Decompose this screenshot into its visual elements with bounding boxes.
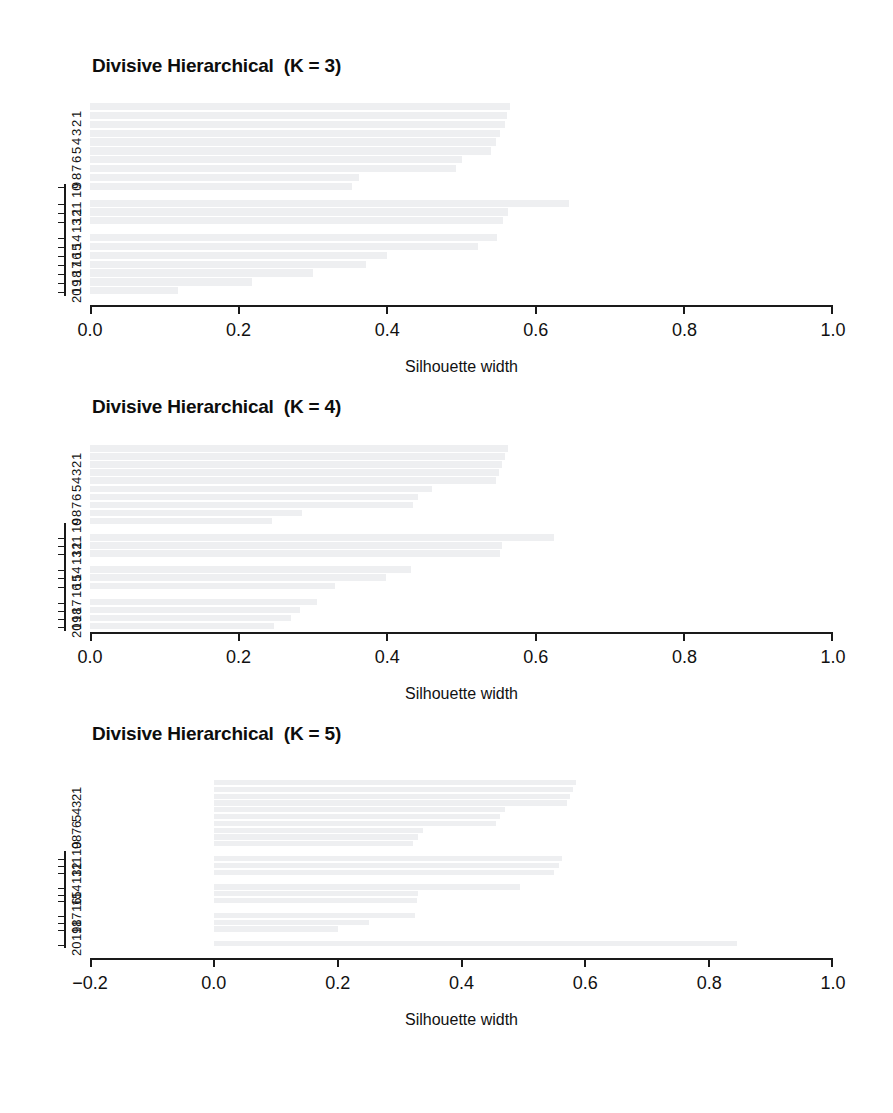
silhouette-bar <box>214 856 562 861</box>
silhouette-bar <box>90 599 317 606</box>
silhouette-bar <box>214 920 369 925</box>
y-axis-tick <box>58 930 65 931</box>
y-axis-tick <box>58 546 65 547</box>
silhouette-bar <box>90 486 432 493</box>
silhouette-bar <box>90 550 500 557</box>
y-axis-tick <box>58 901 65 902</box>
x-axis-right-cap <box>831 958 833 967</box>
silhouette-bar <box>214 913 415 918</box>
y-tick-label: 16 <box>70 898 83 912</box>
silhouette-bar <box>90 615 291 622</box>
y-axis-tick <box>58 222 65 223</box>
silhouette-bar <box>90 566 411 573</box>
y-axis-tick <box>58 554 65 555</box>
x-axis-line <box>90 632 833 634</box>
y-tick-label: 13 <box>70 870 83 884</box>
x-tick-label: 0.8 <box>672 320 697 341</box>
y-axis-tick <box>58 587 65 588</box>
x-axis-line <box>90 305 833 307</box>
silhouette-bar <box>214 780 576 785</box>
y-tick-label: 1 <box>70 453 83 460</box>
silhouette-bar <box>90 138 496 145</box>
silhouette-bar <box>90 542 502 549</box>
silhouette-bar <box>90 103 510 110</box>
silhouette-bar <box>90 518 272 525</box>
y-axis-tick <box>58 283 65 284</box>
y-axis-tick <box>58 916 65 917</box>
x-tick-label: 0.6 <box>523 320 548 341</box>
silhouette-bar <box>214 834 418 839</box>
x-axis-tick <box>461 958 463 967</box>
x-tick-label: 0.4 <box>449 973 474 994</box>
panel-title: Divisive Hierarchical (K = 5) <box>92 723 341 745</box>
y-tick-label: 8 <box>70 173 83 180</box>
y-axis-tick <box>58 213 65 214</box>
silhouette-bar <box>214 891 418 896</box>
x-axis-left-cap <box>90 958 92 967</box>
y-tick-label: 8 <box>70 510 83 517</box>
x-tick-label: 1.0 <box>820 973 845 994</box>
silhouette-bar <box>90 574 386 581</box>
y-axis-tick <box>58 895 65 896</box>
x-tick-label: 1.0 <box>820 320 845 341</box>
x-axis-title: Silhouette width <box>405 1011 518 1029</box>
silhouette-bar <box>90 477 496 484</box>
x-tick-label: 0.2 <box>226 647 251 668</box>
y-axis-tick <box>58 945 65 946</box>
y-tick-label: 20 <box>70 623 83 637</box>
silhouette-bar <box>214 884 520 889</box>
silhouette-bar <box>214 870 555 875</box>
silhouette-bar <box>90 623 274 630</box>
x-axis-tick <box>708 958 710 967</box>
silhouette-bar <box>214 841 413 846</box>
y-tick-label: 19 <box>70 926 83 940</box>
silhouette-bar <box>90 234 497 241</box>
y-tick-label: 4 <box>70 477 83 484</box>
y-axis-tick <box>58 538 65 539</box>
x-tick-label: 0.6 <box>523 647 548 668</box>
x-axis-tick <box>238 305 240 314</box>
y-tick-label: 13 <box>70 551 83 565</box>
y-axis-tick <box>58 859 65 860</box>
x-axis-tick <box>213 958 215 967</box>
silhouette-bar <box>90 445 508 452</box>
silhouette-bar <box>90 269 313 276</box>
silhouette-bar <box>214 863 559 868</box>
x-tick-label: 0.6 <box>573 973 598 994</box>
silhouette-bar <box>214 807 505 812</box>
silhouette-bar <box>214 821 496 826</box>
silhouette-bar <box>90 208 508 215</box>
silhouette-bar <box>90 287 178 294</box>
x-tick-label: 0.2 <box>226 320 251 341</box>
silhouette-bar <box>90 534 554 541</box>
y-tick-label: 3 <box>70 469 83 476</box>
y-axis-tick <box>58 578 65 579</box>
y-axis-line <box>64 184 66 296</box>
x-tick-label: 0.4 <box>375 320 400 341</box>
y-tick-label: 10 <box>70 518 83 532</box>
panel-title: Divisive Hierarchical (K = 3) <box>92 55 341 77</box>
y-axis-tick <box>58 247 65 248</box>
y-tick-label: 16 <box>70 583 83 597</box>
x-axis-tick <box>584 958 586 967</box>
y-tick-label: 2 <box>70 461 83 468</box>
silhouette-bar <box>90 243 478 250</box>
y-axis-tick <box>58 866 65 867</box>
y-axis-tick <box>58 873 65 874</box>
y-axis-line <box>64 523 66 631</box>
silhouette-bar <box>90 156 462 163</box>
y-tick-label: 4 <box>70 808 83 815</box>
y-tick-label: 4 <box>70 138 83 145</box>
silhouette-bar <box>90 183 352 190</box>
silhouette-bar <box>214 828 423 833</box>
y-axis-tick <box>58 238 65 239</box>
y-tick-label: 1 <box>70 111 83 118</box>
silhouette-bar <box>90 147 491 154</box>
y-axis-tick <box>58 274 65 275</box>
y-tick-label: 5 <box>70 147 83 154</box>
x-tick-label: 0.2 <box>325 973 350 994</box>
y-tick-label: 5 <box>70 485 83 492</box>
y-tick-label: 2 <box>70 120 83 127</box>
x-axis-title: Silhouette width <box>405 358 518 376</box>
x-axis-right-cap <box>831 305 833 314</box>
